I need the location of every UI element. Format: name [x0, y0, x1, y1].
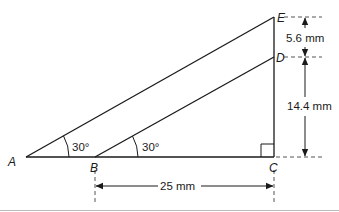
triangle-lines [26, 17, 274, 157]
label-C: C [269, 161, 278, 175]
dim-label-DC: 14.4 mm [287, 100, 332, 112]
label-B: B [90, 161, 98, 175]
angle-label-A: 30° [72, 141, 89, 153]
label-D: D [276, 51, 285, 65]
line-AE [26, 17, 274, 157]
angle-label-B: 30° [142, 141, 159, 153]
geometry-diagram: A B C D E 30° 30° 5.6 mm 14.4 mm 25 mm [0, 0, 339, 212]
dim-label-BC: 25 mm [160, 180, 195, 192]
label-A: A [7, 155, 16, 169]
line-BD [95, 57, 274, 157]
label-E: E [277, 11, 286, 25]
right-angle-marker [261, 144, 274, 157]
angle-arc-B [133, 136, 139, 157]
angle-arc-A [64, 136, 70, 157]
dim-label-ED: 5.6 mm [286, 32, 324, 44]
